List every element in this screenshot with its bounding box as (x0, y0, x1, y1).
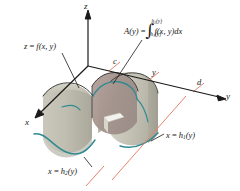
surface-args: (x, y) (39, 41, 56, 51)
projection-line-h2 (86, 166, 104, 186)
area-function-label: A(y) =∫h2(y)h1(y)f(x, y)dx (124, 27, 182, 36)
integral-lower-limit: h1(y) (151, 32, 161, 38)
tick-label-d: d (197, 78, 201, 87)
boundary-upper-label: x = h1(y) (166, 131, 195, 141)
diagram-svg (0, 0, 240, 191)
upper-limit-arg: (y) (156, 18, 162, 24)
h2-arg: (y) (68, 166, 77, 176)
h1-lhs: x (166, 130, 170, 140)
z-axis-arrow (85, 10, 91, 19)
integral-upper-limit: h2(y) (152, 19, 162, 25)
axis-label-z: z (84, 2, 88, 11)
surface-equation-label: z = f(x, y) (24, 42, 56, 51)
leader-h2 (84, 157, 92, 167)
figure-canvas: z x y c y d z = f(x, y) A(y) =∫h2(y)h1(y… (0, 0, 240, 191)
h2-equals: = (54, 166, 59, 176)
differential: dx (174, 26, 182, 36)
y-axis-arrow (217, 95, 226, 101)
surface-lhs: z (24, 41, 27, 51)
h1-equals: = (172, 130, 177, 140)
h2-lhs: x (48, 166, 52, 176)
solid-left-body (43, 84, 92, 154)
lower-limit-arg: (y) (155, 31, 161, 37)
area-lhs: A(y) (124, 26, 139, 36)
axis-label-x: x (25, 118, 29, 127)
tick-label-y: y (152, 68, 156, 77)
boundary-lower-label: x = h2(y) (48, 167, 77, 177)
integral-group: ∫h2(y)h1(y) (146, 28, 155, 37)
h1-arg: (y) (186, 130, 195, 140)
axis-label-y: y (226, 92, 230, 101)
tick-label-c: c (113, 57, 117, 66)
surface-equals: = (29, 41, 34, 51)
